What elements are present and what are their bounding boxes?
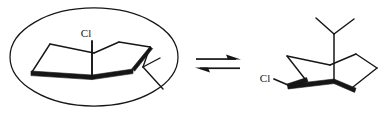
chemical-scheme: Cl xyxy=(0,0,386,120)
reverse-arrow-head xyxy=(195,68,210,73)
right-bond-c5-c6 xyxy=(353,68,377,87)
left-structure-group: Cl xyxy=(10,8,178,106)
left-chlorine-label: Cl xyxy=(81,27,91,39)
left-bond-c2-c3 xyxy=(50,44,94,53)
left-bond-c1-c2 xyxy=(32,44,50,72)
left-isopropyl-methyl-b xyxy=(143,67,163,89)
right-isopropyl-methyl-a xyxy=(316,18,334,34)
equilibrium-double-arrow xyxy=(195,55,241,73)
right-isopropyl-group xyxy=(316,18,354,80)
left-bold-bond-front-left xyxy=(31,71,92,80)
right-chlorine-label: Cl xyxy=(260,72,270,84)
selection-ellipse xyxy=(10,8,178,106)
left-chair-thin-bonds xyxy=(32,42,150,72)
right-isopropyl-methyl-b xyxy=(334,19,354,34)
figure-canvas: Cl xyxy=(0,0,386,120)
left-bond-c3-c4 xyxy=(94,42,119,53)
forward-arrow-head xyxy=(226,55,241,60)
right-bold-bond-front-right xyxy=(334,79,356,92)
left-bold-bond-front-right xyxy=(92,69,133,80)
right-equatorial-cl-bond xyxy=(274,79,288,85)
right-chair-bold-bonds xyxy=(287,78,356,93)
right-bond-c4-c5 xyxy=(356,54,377,68)
right-structure-group: Cl xyxy=(260,18,377,92)
left-bond-c4-c5 xyxy=(119,42,150,47)
